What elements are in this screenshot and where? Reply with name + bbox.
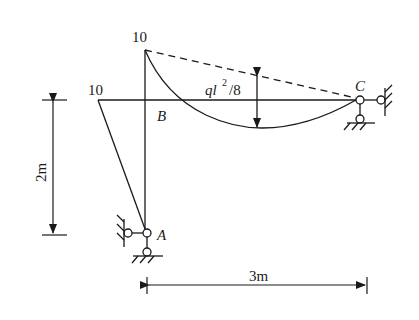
height-dimension-label: 2m — [33, 163, 49, 183]
frame-diagram: 10 10 B C A ql 2 /8 2m 3m — [0, 0, 419, 320]
width-dimension-label: 3m — [249, 268, 269, 284]
support-c — [344, 85, 392, 130]
svg-text:ql: ql — [205, 82, 217, 98]
joint-c-label: C — [355, 78, 366, 94]
midspan-moment-label: ql 2 /8 — [205, 77, 241, 98]
svg-text:/8: /8 — [229, 82, 241, 98]
joint-b-label: B — [157, 108, 166, 124]
column-moment-diagram — [98, 100, 145, 229]
left-moment-label: 10 — [88, 82, 103, 98]
beam-moment-curve — [145, 50, 356, 128]
svg-text:2: 2 — [222, 77, 227, 88]
top-moment-label: 10 — [132, 29, 147, 45]
dashed-baseline — [145, 50, 356, 98]
joint-a-label: A — [156, 227, 167, 243]
